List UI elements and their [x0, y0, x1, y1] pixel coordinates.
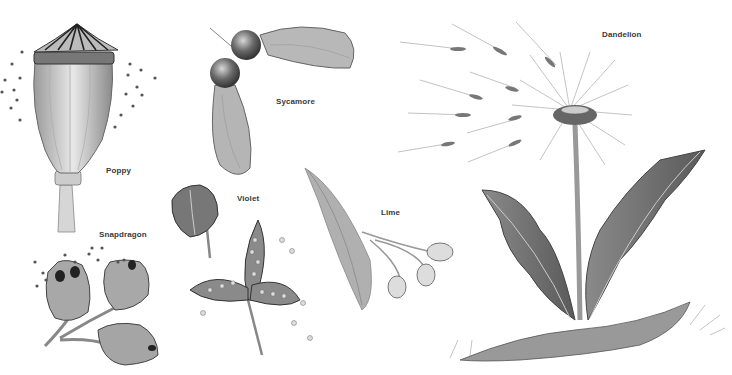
violet-seedpod — [172, 185, 313, 355]
label-snapdragon: Snapdragon — [99, 230, 147, 239]
dandelion-plant — [398, 22, 725, 361]
lime-seeds — [305, 168, 453, 310]
label-lime: Lime — [381, 208, 400, 217]
illustration-drawing — [0, 0, 732, 375]
label-poppy: Poppy — [106, 166, 131, 175]
label-dandelion: Dandelion — [602, 30, 642, 39]
label-sycamore: Sycamore — [276, 97, 315, 106]
botanical-illustration: Poppy Sycamore Dandelion Snapdragon Viol… — [0, 0, 732, 375]
poppy-seedhead — [0, 24, 156, 232]
snapdragon-seedhead — [33, 246, 158, 365]
label-violet: Violet — [237, 194, 259, 203]
